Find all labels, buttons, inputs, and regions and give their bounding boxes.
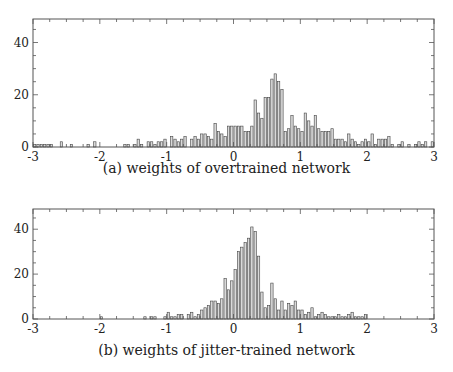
histogram-bar xyxy=(237,252,239,319)
histogram-bar xyxy=(348,315,350,319)
plot-frame xyxy=(33,19,434,147)
histogram-bar xyxy=(247,238,249,319)
x-tick-label: -2 xyxy=(94,322,106,336)
caption-b: (b) weights of jitter-trained network xyxy=(0,342,453,358)
histogram-bar xyxy=(308,312,310,319)
histogram-bar xyxy=(274,299,276,319)
histogram-bar xyxy=(294,126,296,147)
histogram-bar xyxy=(277,82,279,147)
histogram-bar xyxy=(364,139,366,147)
histogram-bar xyxy=(231,126,233,147)
histogram-bar xyxy=(378,139,380,147)
histogram-bar xyxy=(204,308,206,319)
histogram-bar xyxy=(401,142,403,147)
histogram-bar xyxy=(224,137,226,147)
histogram-bar xyxy=(264,97,266,147)
histogram-bar xyxy=(281,90,283,147)
histogram-bar xyxy=(271,283,273,319)
histogram-overtrained: -3-2-1012302040-3-2-1012302040 xyxy=(0,0,453,372)
histogram-bar xyxy=(191,139,193,147)
histogram-bar xyxy=(368,142,370,147)
x-tick-label: 1 xyxy=(297,322,305,336)
x-tick-label: 2 xyxy=(363,322,371,336)
histogram-bar xyxy=(244,131,246,147)
histogram-bar xyxy=(184,137,186,147)
plot-jitter-trained: -3-2-1012302040 xyxy=(14,209,438,336)
histogram-bar xyxy=(331,129,333,147)
histogram-bar xyxy=(381,139,383,147)
histogram-bar xyxy=(267,97,269,147)
histogram-bar xyxy=(241,126,243,147)
histogram-bar xyxy=(261,292,263,319)
histogram-bar xyxy=(171,137,173,147)
histogram-bar xyxy=(94,142,96,147)
histogram-bar xyxy=(267,306,269,319)
histogram-bar xyxy=(301,310,303,319)
histogram-bar xyxy=(318,315,320,319)
histogram-bar xyxy=(334,139,336,147)
histogram-bar xyxy=(241,247,243,319)
histogram-bar xyxy=(261,118,263,147)
histogram-bar xyxy=(314,116,316,147)
histogram-bar xyxy=(181,315,183,319)
histogram-bar xyxy=(251,126,253,147)
histogram-bar xyxy=(388,137,390,147)
histogram-bar xyxy=(297,310,299,319)
histogram-bar xyxy=(277,310,279,319)
histogram-bar xyxy=(371,134,373,147)
x-tick-label: 3 xyxy=(430,322,438,336)
histogram-bar xyxy=(234,126,236,147)
histogram-bar xyxy=(150,142,152,147)
histogram-bar xyxy=(211,301,213,319)
histogram-bar xyxy=(197,315,199,319)
histogram-bar xyxy=(237,126,239,147)
plot-frame xyxy=(33,209,434,319)
histogram-bar xyxy=(318,129,320,147)
histogram-bar xyxy=(160,142,162,147)
y-tick-label: 20 xyxy=(14,88,29,102)
x-tick-label: 0 xyxy=(230,322,238,336)
histogram-bar xyxy=(201,134,203,147)
histogram-bar xyxy=(431,142,433,147)
histogram-bar xyxy=(344,142,346,147)
histogram-bar xyxy=(297,129,299,147)
histogram-bar xyxy=(254,231,256,319)
histogram-bar xyxy=(418,142,420,147)
histogram-bar xyxy=(301,131,303,147)
histogram-bar xyxy=(247,131,249,147)
histogram-bar xyxy=(147,142,149,147)
histogram-bar xyxy=(424,142,426,147)
histogram-bar xyxy=(214,123,216,147)
histogram-bar xyxy=(164,139,166,147)
histogram-bar xyxy=(201,310,203,319)
histogram-bar xyxy=(137,139,139,147)
histogram-bar xyxy=(197,139,199,147)
histogram-bar xyxy=(224,279,226,319)
histogram-bar xyxy=(284,310,286,319)
histogram-bar xyxy=(257,256,259,319)
histogram-bar xyxy=(227,126,229,147)
histogram-bar xyxy=(294,301,296,319)
histogram-bar xyxy=(257,113,259,147)
histogram-bar xyxy=(254,100,256,147)
histogram-bar xyxy=(348,134,350,147)
histogram-bar xyxy=(361,142,363,147)
histogram-bar xyxy=(351,139,353,147)
histogram-bar xyxy=(231,281,233,319)
histogram-bar xyxy=(181,139,183,147)
histogram-bar xyxy=(177,142,179,147)
histogram-bar xyxy=(187,315,189,319)
histogram-bar xyxy=(304,315,306,319)
histogram-bar xyxy=(177,315,179,319)
caption-a: (a) weights of overtrained network xyxy=(0,160,453,176)
histogram-bar xyxy=(204,134,206,147)
histogram-bar xyxy=(328,131,330,147)
histogram-bar xyxy=(321,131,323,147)
histogram-bar xyxy=(341,139,343,147)
histogram-bar xyxy=(291,116,293,147)
histogram-bar xyxy=(227,290,229,319)
histogram-bar xyxy=(338,139,340,147)
y-tick-label: 40 xyxy=(14,222,29,236)
histogram-bar xyxy=(207,306,209,319)
histogram-bar xyxy=(217,303,219,319)
